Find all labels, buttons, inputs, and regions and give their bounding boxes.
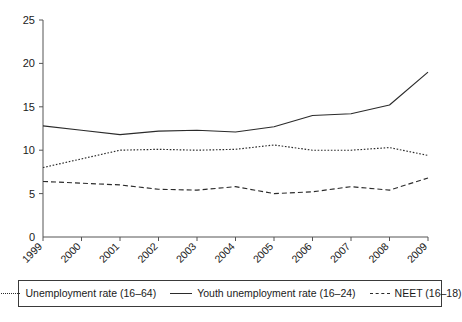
legend-label: NEET (16–18) xyxy=(395,288,462,299)
x-tick-label: 2008 xyxy=(366,240,391,265)
legend-line-swatch-dotted xyxy=(0,293,20,295)
y-tick-label: 25 xyxy=(23,14,35,26)
chart-plot-area: 0510152025 19992000200120022003200420052… xyxy=(0,0,462,322)
series-lines xyxy=(43,72,428,194)
y-axis: 0510152025 xyxy=(23,14,43,243)
x-tick-label: 1999 xyxy=(19,240,44,265)
x-tick-label: 2000 xyxy=(58,240,83,265)
x-tick-label: 2002 xyxy=(135,240,160,265)
legend-label: Youth unemployment rate (16–24) xyxy=(197,288,355,299)
series-line xyxy=(43,178,428,194)
legend-entry: NEET (16–18) xyxy=(363,288,462,299)
legend-label: Unemployment rate (16–64) xyxy=(25,288,156,299)
x-tick-label: 2001 xyxy=(96,240,121,265)
legend-line-swatch-dashed xyxy=(370,293,390,295)
y-tick-label: 20 xyxy=(23,57,35,69)
x-tick-label: 2009 xyxy=(404,240,429,265)
x-tick-label: 2005 xyxy=(250,240,275,265)
x-tick-label: 2007 xyxy=(327,240,352,265)
y-tick-label: 5 xyxy=(29,188,35,200)
x-axis: 1999200020012002200320042005200620072008… xyxy=(19,237,429,265)
legend-entry: Youth unemployment rate (16–24) xyxy=(163,288,362,299)
y-tick-label: 10 xyxy=(23,144,35,156)
chart-legend: Unemployment rate (16–64)Youth unemploym… xyxy=(18,280,442,307)
line-chart: 0510152025 19992000200120022003200420052… xyxy=(0,0,462,322)
x-tick-label: 2004 xyxy=(212,240,237,265)
y-tick-label: 15 xyxy=(23,101,35,113)
series-line xyxy=(43,72,428,135)
series-line xyxy=(43,145,428,168)
x-tick-label: 2003 xyxy=(173,240,198,265)
legend-line-swatch-solid xyxy=(170,293,192,295)
legend-entry: Unemployment rate (16–64) xyxy=(0,288,163,299)
x-tick-label: 2006 xyxy=(289,240,314,265)
